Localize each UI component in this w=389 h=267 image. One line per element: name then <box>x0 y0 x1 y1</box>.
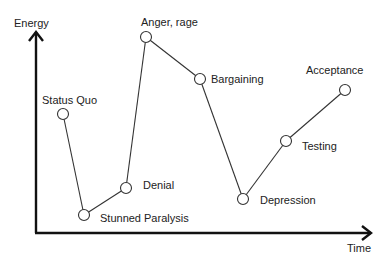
stage-label: Depression <box>260 194 316 206</box>
stage-point-icon <box>340 85 351 96</box>
stage-point-icon <box>195 74 206 85</box>
curve-labels: Status QuoStunned ParalysisDenialAnger, … <box>42 16 363 224</box>
stage-point-icon <box>281 136 292 147</box>
x-axis-label: Time <box>347 242 371 254</box>
stage-point-icon <box>79 210 90 221</box>
y-axis-label: Energy <box>14 17 49 29</box>
curve-segment <box>126 37 146 188</box>
stage-point-icon <box>238 194 249 205</box>
curve-segment <box>146 37 200 79</box>
curve-segment <box>84 188 126 215</box>
stage-point-icon <box>121 183 132 194</box>
stage-label: Anger, rage <box>141 16 198 28</box>
stage-label: Testing <box>302 140 337 152</box>
stage-label: Status Quo <box>42 94 97 106</box>
curve-segment <box>243 141 286 199</box>
stage-label: Denial <box>143 179 174 191</box>
stage-point-icon <box>141 32 152 43</box>
curve-segment <box>63 114 84 215</box>
curve-segment <box>200 79 243 199</box>
stage-point-icon <box>58 109 69 120</box>
stage-label: Stunned Paralysis <box>100 212 189 224</box>
stage-label: Bargaining <box>211 73 264 85</box>
curve-line <box>63 37 345 215</box>
curve-points <box>58 32 351 221</box>
stage-label: Acceptance <box>306 64 363 76</box>
change-curve-diagram: Energy Time Status QuoStunned ParalysisD… <box>0 0 389 267</box>
curve-segment <box>286 90 345 141</box>
